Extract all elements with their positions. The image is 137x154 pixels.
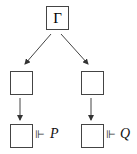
right-formula: Q xyxy=(120,126,130,142)
left-formula: P xyxy=(50,126,59,142)
left-bottom-node xyxy=(10,124,33,148)
left-middle-node xyxy=(10,71,33,95)
right-forces-symbol: ⊩ xyxy=(106,128,116,141)
edge-root-right xyxy=(61,34,88,64)
root-label: Γ xyxy=(53,10,62,27)
left-forces-symbol: ⊩ xyxy=(35,128,45,141)
root-node: Γ xyxy=(46,6,69,30)
right-middle-node xyxy=(81,71,104,95)
right-bottom-node xyxy=(81,124,104,148)
edge-root-left xyxy=(25,34,51,64)
